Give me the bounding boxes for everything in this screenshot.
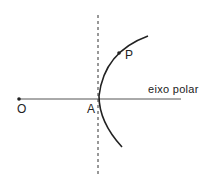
vertex-label: A <box>87 103 95 115</box>
conic-curve <box>99 36 148 147</box>
point-p <box>117 51 121 55</box>
point-label: P <box>125 49 133 61</box>
axis-label: eixo polar <box>148 84 199 95</box>
origin-label: O <box>17 103 26 115</box>
origin-point <box>17 97 21 101</box>
